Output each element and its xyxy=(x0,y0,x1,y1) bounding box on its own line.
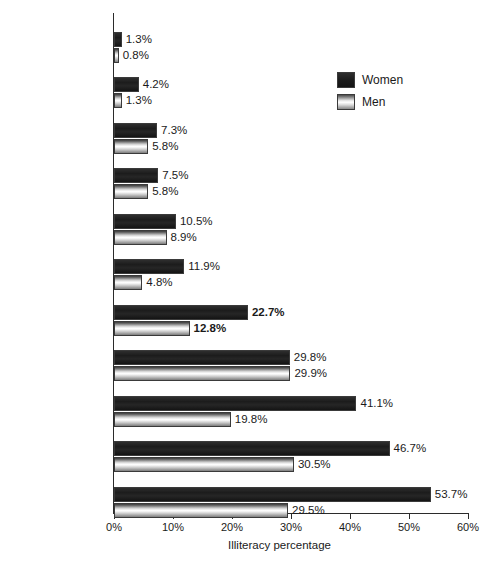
bar-women xyxy=(114,123,157,138)
bar-men xyxy=(114,93,122,108)
x-axis-tick-label: 60% xyxy=(457,521,479,533)
bar-value-label-men: 0.8% xyxy=(119,48,149,63)
legend-item-men: Men xyxy=(337,92,403,111)
x-axis-tick-label: 50% xyxy=(398,521,420,533)
illiteracy-bar-chart: 0%10%20%30%40%50%60% North America and W… xyxy=(0,0,489,564)
x-axis-title: Illiteracy percentage xyxy=(0,539,489,551)
bar-value-label-women: 7.5% xyxy=(158,168,188,183)
legend-item-women: Women xyxy=(337,70,403,89)
x-axis-tick xyxy=(468,514,469,519)
bar-value-label-men: 12.8% xyxy=(190,321,227,336)
x-axis-tick-label: 20% xyxy=(221,521,243,533)
bar-men xyxy=(114,139,148,154)
x-axis-tick-label: 40% xyxy=(339,521,361,533)
bar-men xyxy=(114,503,288,518)
x-axis-tick-label: 30% xyxy=(280,521,302,533)
bar-women xyxy=(114,32,122,47)
bar-value-label-women: 41.1% xyxy=(356,396,393,411)
bar-women xyxy=(114,396,356,411)
bar-men xyxy=(114,230,167,245)
bar-women xyxy=(114,77,139,92)
bar-value-label-men: 1.3% xyxy=(122,93,152,108)
bar-men xyxy=(114,412,231,427)
bar-men xyxy=(114,275,142,290)
legend-label-women: Women xyxy=(362,73,403,87)
legend-label-men: Men xyxy=(362,95,385,109)
bar-men xyxy=(114,321,190,336)
bar-value-label-women: 46.7% xyxy=(390,441,427,456)
bar-men xyxy=(114,366,290,381)
bar-value-label-women: 11.9% xyxy=(184,259,220,274)
bar-women xyxy=(114,214,176,229)
bar-value-label-men: 29.5% xyxy=(288,503,325,518)
legend-swatch-men-icon xyxy=(337,94,355,110)
bar-value-label-women: 10.5% xyxy=(176,214,213,229)
x-axis-tick xyxy=(350,514,351,519)
x-axis-tick xyxy=(409,514,410,519)
x-axis-tick-label: 10% xyxy=(162,521,184,533)
bar-value-label-women: 1.3% xyxy=(122,32,152,47)
bar-women xyxy=(114,487,431,502)
x-axis-tick-label: 0% xyxy=(106,521,122,533)
bar-value-label-women: 7.3% xyxy=(157,123,187,138)
bar-value-label-men: 4.8% xyxy=(142,275,172,290)
bar-value-label-men: 5.8% xyxy=(148,184,178,199)
bar-value-label-men: 30.5% xyxy=(294,457,331,472)
bar-value-label-women: 22.7% xyxy=(248,305,285,320)
bar-women xyxy=(114,350,290,365)
bar-women xyxy=(114,259,184,274)
bar-value-label-men: 19.8% xyxy=(231,412,268,427)
legend-swatch-women-icon xyxy=(337,72,355,88)
chart-legend: Women Men xyxy=(337,70,403,114)
bar-women xyxy=(114,441,390,456)
bar-women xyxy=(114,305,248,320)
bar-men xyxy=(114,457,294,472)
bar-men xyxy=(114,184,148,199)
bar-value-label-women: 53.7% xyxy=(431,487,468,502)
bar-value-label-men: 8.9% xyxy=(167,230,197,245)
bar-value-label-men: 29.9% xyxy=(290,366,327,381)
bar-women xyxy=(114,168,158,183)
bar-value-label-men: 5.8% xyxy=(148,139,178,154)
bar-value-label-women: 4.2% xyxy=(139,77,169,92)
plot-area: North America and Western Europe1.3%0.8%… xyxy=(114,13,468,513)
bar-value-label-women: 29.8% xyxy=(290,350,327,365)
